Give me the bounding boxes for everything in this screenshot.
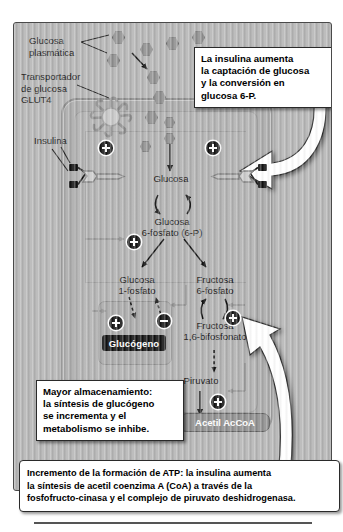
status-badge-stimulate <box>226 311 240 325</box>
insulin-receptor-icon <box>52 161 132 193</box>
status-badge-inhibit <box>157 314 171 328</box>
metabolite-glucose-6-phosphate: Glucosa 6-fosfato (6-P) <box>132 216 212 238</box>
label-glut4: Transportador de glucosa GLUT4 <box>21 71 80 106</box>
callout-insulin-uptake: La insulina aumenta la captación de gluc… <box>194 47 332 108</box>
metabolite-glycogen-chip: Glucógeno <box>102 335 166 351</box>
status-badge-stimulate <box>99 141 113 155</box>
status-badge-stimulate <box>206 141 220 155</box>
status-badge-stimulate <box>109 316 123 330</box>
metabolite-glucose-1-phosphate: Glucosa 1-fosfato <box>104 274 170 296</box>
status-badge-stimulate <box>127 235 141 249</box>
status-badge-stimulate <box>211 395 225 409</box>
footer-divider <box>34 522 312 524</box>
callout-atp-formation: Incremento de la formación de ATP: la in… <box>19 460 340 512</box>
glut4-transporter-icon <box>89 95 133 139</box>
metabolite-acetyl-coa-chip: Acetil AcCoA <box>180 413 270 432</box>
label-plasma-glucose: Glucosa plasmática <box>29 35 74 58</box>
figure-panel: Glucosa plasmática Transportador de gluc… <box>13 22 332 491</box>
insulin-receptor-icon <box>204 161 284 193</box>
callout-glycogen-storage: Mayor almacenamiento: la síntesis de glu… <box>36 380 184 441</box>
label-insulin: Insulina <box>34 135 67 147</box>
metabolite-glucose: Glucosa <box>140 173 202 184</box>
metabolite-fructose-6-phosphate: Fructosa 6-fosfato <box>182 274 248 296</box>
metabolite-fructose-1-6-bisphosphate: Fructosa 1,6-bifosfonato <box>174 320 256 342</box>
